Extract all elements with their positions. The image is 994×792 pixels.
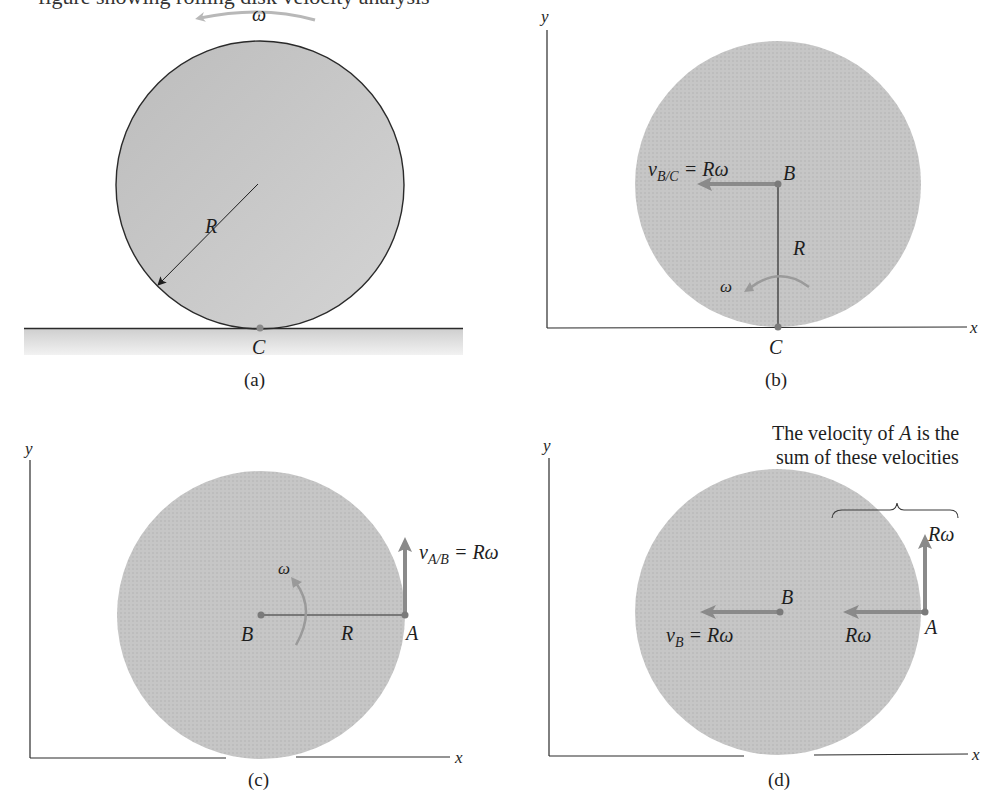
point-a-label: A xyxy=(923,616,938,638)
disk xyxy=(116,41,404,329)
omega-label: ω xyxy=(278,559,290,578)
caption-c: (c) xyxy=(248,769,269,791)
x-axis xyxy=(547,327,967,328)
velocity-label: vA/B = Rω xyxy=(419,541,499,567)
x-axis-label: x xyxy=(969,318,978,337)
up-velocity-label: Rω xyxy=(927,523,954,545)
point-c-label: C xyxy=(252,336,266,358)
left-velocity-label: Rω xyxy=(844,624,871,646)
point-b-label: B xyxy=(783,162,795,184)
panel-c xyxy=(30,460,450,759)
clipped-header-text: figure showing rolling disk velocity ana… xyxy=(38,0,430,10)
x-axis-label: x xyxy=(971,745,980,764)
point-b-dot xyxy=(775,181,782,188)
panel-b xyxy=(547,30,967,331)
point-b-label: B xyxy=(781,586,793,608)
x-axis-label: x xyxy=(454,748,463,767)
radius-label: R xyxy=(340,622,353,644)
y-axis-label: y xyxy=(541,436,551,455)
omega-label: ω xyxy=(720,277,732,296)
note-line-2: sum of these velocities xyxy=(776,446,959,468)
radius-label: R xyxy=(792,237,805,259)
y-axis-label: y xyxy=(539,7,549,26)
contact-point-dot xyxy=(257,325,264,332)
caption-d: (d) xyxy=(768,769,790,791)
caption-b: (b) xyxy=(765,369,787,391)
point-b-label: B xyxy=(241,623,253,645)
panel-d xyxy=(549,458,968,756)
point-c-label: C xyxy=(769,336,783,358)
point-a-dot xyxy=(402,612,409,619)
note-line-1: The velocity of A is the xyxy=(772,422,959,445)
point-a-dot xyxy=(922,609,929,616)
y-axis-label: y xyxy=(23,439,33,458)
rolling-disk-figure: ω R C (a) y x vB/C = Rω B R ω C (b) y x … xyxy=(0,0,994,792)
point-a-label: A xyxy=(404,622,419,644)
x-axis-right xyxy=(814,754,968,755)
ground-surface xyxy=(24,329,463,355)
point-b-dot xyxy=(258,612,265,619)
point-b-dot xyxy=(777,609,784,616)
panel-a xyxy=(24,12,463,355)
point-c-dot xyxy=(775,324,782,331)
caption-a: (a) xyxy=(244,369,265,391)
radius-label: R xyxy=(204,215,217,237)
